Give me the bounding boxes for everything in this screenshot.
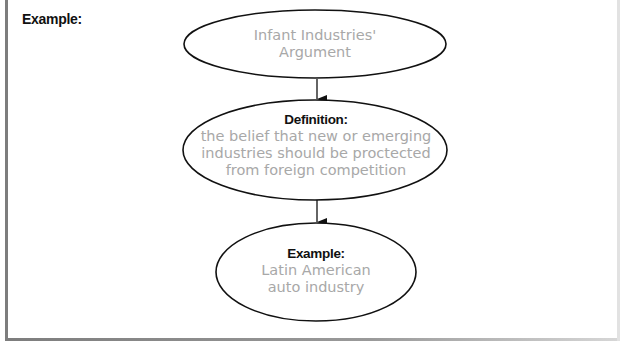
example-heading: Example: xyxy=(236,245,396,262)
definition-heading: Definition: xyxy=(188,111,444,128)
term-text: Infant Industries' Argument xyxy=(195,27,435,61)
definition-node-text: Definition: the belief that new or emerg… xyxy=(188,111,444,179)
example-node-text: Example: Latin American auto industry xyxy=(236,245,396,296)
term-node-text: Infant Industries' Argument xyxy=(195,27,435,61)
example-text: Latin American auto industry xyxy=(236,262,396,296)
definition-text: the belief that new or emerging industri… xyxy=(188,128,444,179)
